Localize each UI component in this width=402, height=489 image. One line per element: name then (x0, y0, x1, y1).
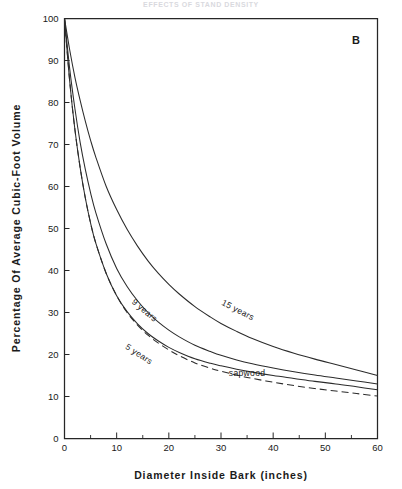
x-tick-label: 40 (268, 442, 279, 453)
chart-canvas: 01020304050607080901000102030405060 15 y… (0, 0, 402, 489)
y-tick-label: 90 (48, 55, 59, 66)
x-tick-label: 60 (372, 442, 383, 453)
curve-labels-group: 15 years9 years5 yearssapwood (124, 297, 266, 379)
series-curve-5-years (65, 19, 378, 390)
y-axis-title: Percentage Of Average Cubic-Foot Volume (10, 104, 22, 352)
series-curve-9-years (65, 19, 378, 384)
x-tick-label: 0 (62, 442, 67, 453)
y-tick-label: 70 (48, 139, 59, 150)
y-tick-label: 20 (48, 349, 59, 360)
y-tick-label: 0 (53, 433, 58, 444)
y-tick-label: 80 (48, 97, 59, 108)
series-label-15-years: 15 years (220, 297, 256, 322)
x-tick-label: 50 (320, 442, 331, 453)
panel-label: B (352, 34, 360, 46)
series-label-5-years: 5 years (124, 342, 155, 367)
curves-group (65, 19, 378, 397)
axes-group: 01020304050607080901000102030405060 (43, 13, 383, 453)
figure-panel-b: EFFECTS OF STAND DENSITY 010203040506070… (0, 0, 402, 489)
y-tick-label: 30 (48, 307, 59, 318)
series-curve-sapwood (65, 19, 378, 397)
y-tick-label: 100 (43, 13, 59, 24)
series-curve-15-years (65, 19, 378, 376)
x-tick-label: 10 (111, 442, 122, 453)
x-axis-title: Diameter Inside Bark (inches) (134, 469, 308, 481)
y-tick-label: 40 (48, 265, 59, 276)
plot-frame (65, 19, 378, 439)
y-tick-label: 60 (48, 181, 59, 192)
series-label-sapwood: sapwood (229, 368, 266, 378)
y-tick-label: 10 (48, 391, 59, 402)
x-tick-label: 20 (164, 442, 175, 453)
y-tick-label: 50 (48, 223, 59, 234)
x-tick-label: 30 (216, 442, 227, 453)
